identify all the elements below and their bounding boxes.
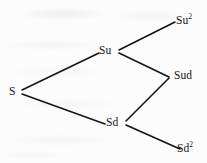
node-exponent-su-squared: 2 [188,12,192,21]
node-label-sd: Sd [106,117,118,129]
edge-su-to-su2 [119,22,175,50]
node-base-sd-squared: Sd [177,142,189,154]
edge-s-to-sd [22,94,105,124]
edge-sd-to-sud [126,78,169,121]
node-exponent-sd-squared: 2 [189,140,193,149]
node-label-su: Su [99,45,111,57]
edge-sd-to-sd2 [126,125,180,149]
node-label-sud: Sud [174,70,192,82]
node-base-su: Su [99,44,111,56]
edge-su-to-sud [119,53,169,77]
node-base-sd: Sd [106,116,118,128]
node-label-su-squared: Su2 [176,15,192,27]
node-base-sud: Sud [174,69,192,81]
binomial-tree-figure: S Su Sd Su2 Sud Sd2 [0,0,207,163]
node-base-su-squared: Su [176,14,188,26]
edge-s-to-su [22,53,99,90]
node-label-sd-squared: Sd2 [177,143,193,155]
node-label-s: S [9,86,16,98]
node-base-s: S [9,85,16,97]
